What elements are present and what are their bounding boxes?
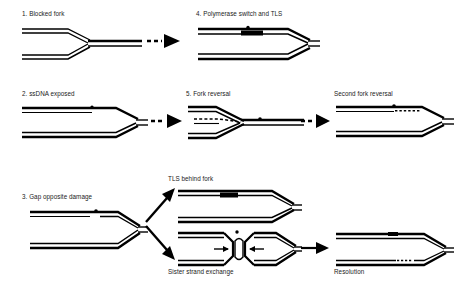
lesion-dot-icon	[90, 106, 93, 109]
panel-sister-strand-exchange	[176, 228, 304, 270]
panel-label-gap-opposite-damage: 3. Gap opposite damage	[22, 193, 92, 200]
arrow-fork-reversal-to-second	[300, 113, 332, 129]
branch-migration-arrow-icon	[249, 246, 255, 252]
lesion-dot-icon	[94, 209, 98, 213]
arrow-gap-to-tls-behind-fork	[144, 188, 178, 224]
panel-blocked-fork	[20, 22, 145, 64]
panel-polymerase-switch-tls	[196, 22, 321, 64]
tls-patch-icon	[241, 31, 263, 36]
arrow-gap-to-sister-strand-exchange	[144, 224, 178, 260]
branch-migration-arrow-icon	[223, 246, 229, 252]
panel-label-second-fork-reversal: Second fork reversal	[334, 90, 393, 97]
panel-ssdna-exposed	[20, 102, 150, 142]
lesion-dot-icon	[392, 104, 396, 108]
panel-label-tls-behind-fork: TLS behind fork	[168, 175, 213, 182]
tls-patch-icon	[220, 193, 238, 198]
panel-label-fork-reversal: 5. Fork reversal	[186, 90, 231, 97]
arrow-sister-exchange-to-resolution	[300, 240, 330, 256]
lesion-dot-icon	[235, 230, 238, 233]
panel-fork-reversal	[186, 100, 306, 142]
panel-label-ssdna-exposed: 2. ssDNA exposed	[22, 90, 75, 97]
lesion-dot-icon	[246, 26, 249, 29]
panel-label-blocked-fork: 1. Blocked fork	[22, 10, 64, 17]
panel-second-fork-reversal	[334, 101, 456, 141]
panel-gap-opposite-damage	[28, 205, 150, 253]
panel-label-polymerase-switch: 4. Polymerase switch and TLS	[196, 10, 282, 17]
arrow-ssdna-to-fork-reversal	[150, 113, 184, 129]
arrow-blocked-fork-to-tls	[146, 33, 182, 49]
lesion-dot-icon	[258, 117, 262, 121]
panel-tls-behind-fork	[176, 185, 304, 227]
repair-patch-icon	[388, 232, 398, 236]
panel-resolution	[334, 228, 456, 270]
